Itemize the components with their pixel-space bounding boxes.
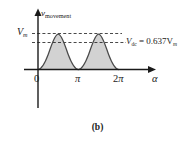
average-value-subscript: dc bbox=[132, 41, 137, 47]
peak-value-subscript: m bbox=[23, 31, 27, 38]
x-axis-label: α bbox=[152, 74, 158, 85]
figure-panel-b: vmovement Vm Vdc = 0.637Vm 0 π 2π α (b) bbox=[0, 0, 195, 145]
equals-sign: = bbox=[139, 36, 144, 46]
peak-value-label: Vm bbox=[17, 27, 28, 37]
waveform-fill bbox=[38, 34, 119, 70]
figure-caption: (b) bbox=[0, 122, 195, 132]
xtick-label-0: 0 bbox=[34, 74, 39, 85]
average-value-annotation: Vdc = 0.637Vm bbox=[126, 37, 177, 46]
y-axis-subscript-word: movement bbox=[45, 12, 71, 19]
average-value-number-subscript: m bbox=[173, 41, 177, 47]
average-value-symbol: V bbox=[126, 36, 132, 46]
xtick-label-2pi: 2π bbox=[113, 74, 124, 85]
xtick-label-pi: π bbox=[75, 74, 80, 85]
average-value-number: 0.637V bbox=[146, 36, 173, 46]
y-axis-label: vmovement bbox=[41, 9, 71, 18]
